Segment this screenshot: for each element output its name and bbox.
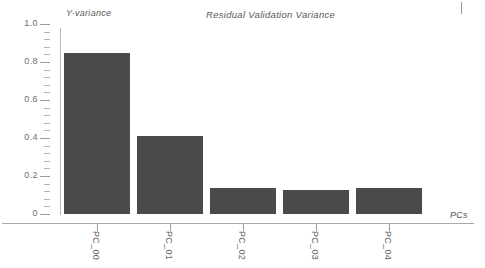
- y-axis-tick-label-wrap: 1.0: [0, 18, 38, 30]
- bar: [283, 190, 349, 214]
- y-axis-tick-major: [40, 138, 50, 139]
- y-axis-tick-label-wrap: 0: [0, 208, 38, 220]
- y-axis-tick-label-wrap: 0.2: [0, 170, 38, 182]
- y-axis-tick-label-wrap: 0.6: [0, 94, 38, 106]
- y-axis-tick-minor: [44, 153, 50, 154]
- y-axis-tick-minor: [44, 115, 50, 116]
- y-axis-tick-minor: [44, 108, 50, 109]
- y-axis-tick-minor: [44, 39, 50, 40]
- bars-layer: [60, 24, 425, 214]
- x-axis-tick: [97, 224, 98, 231]
- y-axis-tick-major: [40, 176, 50, 177]
- y-axis-tick-label: 0.2: [4, 170, 38, 180]
- y-axis-tick-major: [40, 100, 50, 101]
- bar: [210, 188, 276, 214]
- bar: [356, 188, 422, 214]
- x-axis-tick: [316, 224, 317, 231]
- bar: [137, 136, 203, 214]
- x-axis-tick-label: PC_03: [310, 231, 320, 260]
- y-axis-tick-minor: [44, 146, 50, 147]
- residual-validation-variance-chart: Residual Validation Variance Y-variance …: [0, 0, 485, 268]
- y-axis-tick-minor: [44, 184, 50, 185]
- x-axis-tick: [243, 224, 244, 231]
- y-axis-tick-label: 0.8: [4, 56, 38, 66]
- y-axis-tick-label-wrap: 0.8: [0, 56, 38, 68]
- y-axis-tick-label: 1.0: [4, 18, 38, 28]
- y-axis-tick-major: [40, 24, 50, 25]
- x-axis-title: PCs: [450, 210, 468, 220]
- y-axis-tick-major: [40, 62, 50, 63]
- y-axis-title: Y-variance: [66, 8, 111, 18]
- chart-title: Residual Validation Variance: [206, 9, 335, 20]
- y-axis-tick-label: 0.4: [4, 132, 38, 142]
- y-axis-tick-minor: [44, 92, 50, 93]
- x-axis-line: [2, 223, 474, 224]
- x-axis-tick-label: PC_01: [164, 231, 174, 260]
- y-axis-tick-minor: [44, 161, 50, 162]
- y-axis-tick-minor: [44, 54, 50, 55]
- y-axis-tick-minor: [44, 199, 50, 200]
- y-axis-tick-label: 0.6: [4, 94, 38, 104]
- y-axis-tick-minor: [44, 191, 50, 192]
- x-axis-tick: [389, 224, 390, 231]
- y-axis-tick-label: 0: [4, 208, 38, 218]
- y-axis-tick-minor: [44, 123, 50, 124]
- y-axis-tick-major: [40, 214, 50, 215]
- bar: [64, 53, 130, 214]
- y-axis-tick-minor: [44, 206, 50, 207]
- x-axis-tick: [170, 224, 171, 231]
- y-axis-tick-label-wrap: 0.4: [0, 132, 38, 144]
- y-axis-tick-minor: [44, 47, 50, 48]
- x-axis-tick-label: PC_00: [91, 231, 101, 260]
- y-axis-tick-minor: [44, 85, 50, 86]
- y-axis-tick-minor: [44, 77, 50, 78]
- page-corner-mark: [461, 2, 462, 14]
- x-axis-tick-label: PC_04: [383, 231, 393, 260]
- y-axis-tick-minor: [44, 168, 50, 169]
- y-axis-tick-minor: [44, 32, 50, 33]
- y-axis-tick-minor: [44, 130, 50, 131]
- x-axis-tick-label: PC_02: [237, 231, 247, 260]
- y-axis-tick-minor: [44, 70, 50, 71]
